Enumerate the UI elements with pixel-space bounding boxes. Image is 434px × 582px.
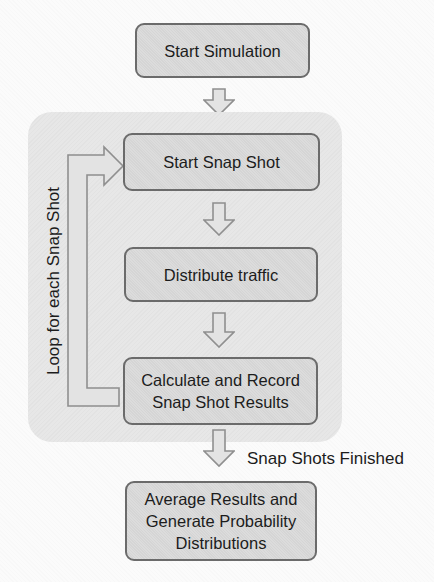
node-start-simulation: Start Simulation (135, 23, 310, 78)
node-calculate-record-snap-shot-results: Calculate and Record Snap Shot Results (123, 357, 318, 425)
down-arrow-icon (203, 429, 235, 468)
node-start-snap-shot-label: Start Snap Shot (163, 151, 280, 173)
node-start-snap-shot: Start Snap Shot (123, 133, 320, 191)
node-distribute-traffic: Distribute traffic (124, 247, 318, 302)
node-calculate-record-line-2: Snap Shot Results (152, 391, 289, 413)
flowchart-canvas: Start Simulation Loop for each Snap Shot… (0, 0, 434, 582)
node-average-results-line-2: Generate Probability (146, 510, 296, 532)
node-calculate-record-line-1: Calculate and Record (141, 369, 300, 391)
node-average-results-line-3: Distributions (176, 532, 267, 554)
down-arrow-icon (203, 202, 235, 236)
node-start-simulation-label: Start Simulation (164, 40, 280, 62)
loop-label: Loop for each Snap Shot (44, 187, 64, 375)
snap-shots-finished-label: Snap Shots Finished (247, 449, 404, 469)
down-arrow-icon (203, 312, 235, 348)
loop-back-arrow-icon (64, 140, 128, 410)
node-distribute-traffic-label: Distribute traffic (164, 264, 278, 286)
node-average-results-line-1: Average Results and (145, 488, 298, 510)
node-average-results: Average Results and Generate Probability… (125, 481, 317, 561)
